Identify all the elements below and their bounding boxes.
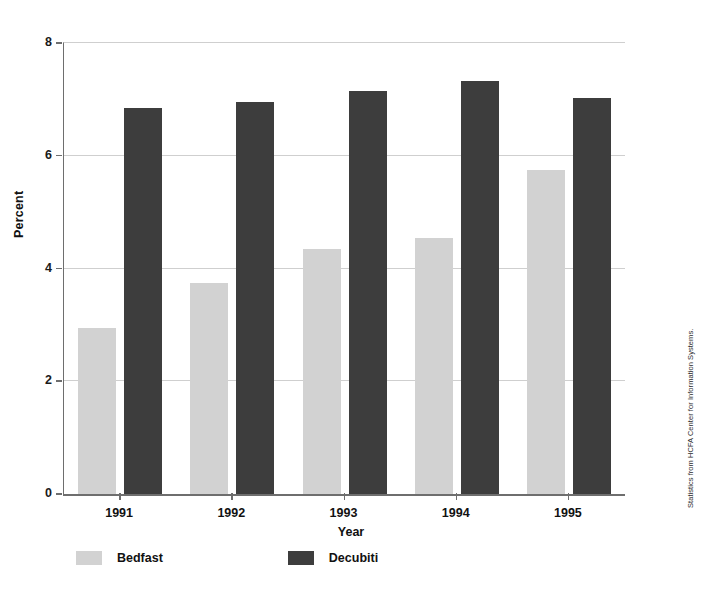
bar-bedfast-1994 <box>415 238 453 495</box>
x-tick-mark-1993 <box>344 493 346 500</box>
x-tick-label-1995: 1995 <box>528 507 608 520</box>
bar-chart: Percent 02468 19911992199319941995 Year … <box>0 0 702 595</box>
x-axis-ticks: 19911992199319941995 <box>63 493 624 503</box>
x-tick-label-1994: 1994 <box>416 507 496 520</box>
bar-group-1991 <box>78 43 162 494</box>
x-tick-mark-1995 <box>568 493 570 500</box>
bar-decubiti-1991 <box>124 108 162 494</box>
bar-bedfast-1995 <box>527 170 565 494</box>
bar-decubiti-1993 <box>349 91 387 494</box>
bar-group-1994 <box>415 43 499 494</box>
y-axis-tick-marks <box>0 42 63 493</box>
source-note: Statistics from HCFA Center for Informat… <box>686 329 695 508</box>
x-axis-title: Year <box>0 525 702 539</box>
bar-decubiti-1992 <box>236 102 274 494</box>
bar-group-1992 <box>190 43 274 494</box>
y-tick-mark-4 <box>56 268 62 270</box>
y-tick-mark-2 <box>56 380 62 382</box>
bar-bedfast-1993 <box>303 249 341 494</box>
y-tick-mark-8 <box>56 42 62 44</box>
legend: BedfastDecubiti <box>76 551 378 565</box>
legend-item-bedfast[interactable]: Bedfast <box>76 551 163 565</box>
bar-group-1995 <box>527 43 611 494</box>
x-tick-label-1992: 1992 <box>191 507 271 520</box>
bar-bedfast-1991 <box>78 328 116 494</box>
bar-decubiti-1994 <box>461 81 499 494</box>
x-tick-label-1991: 1991 <box>79 507 159 520</box>
legend-swatch-bedfast <box>76 551 102 565</box>
legend-item-decubiti[interactable]: Decubiti <box>288 551 378 565</box>
x-tick-label-1993: 1993 <box>304 507 384 520</box>
plot-inner <box>64 43 625 494</box>
bar-decubiti-1995 <box>573 98 611 494</box>
legend-swatch-decubiti <box>288 551 314 565</box>
y-tick-mark-6 <box>56 155 62 157</box>
plot-area <box>63 42 625 494</box>
legend-label-decubiti: Decubiti <box>329 551 378 565</box>
legend-label-bedfast: Bedfast <box>117 551 163 565</box>
x-tick-mark-1991 <box>119 493 121 500</box>
y-tick-mark-0 <box>56 493 62 495</box>
bar-group-1993 <box>303 43 387 494</box>
x-tick-mark-1994 <box>456 493 458 500</box>
x-tick-mark-1992 <box>231 493 233 500</box>
bar-bedfast-1992 <box>190 283 228 494</box>
